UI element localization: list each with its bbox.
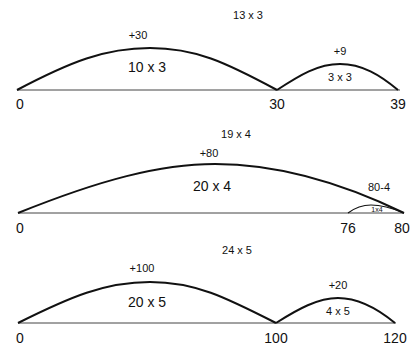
number-line-1-jump-1-label: +30	[129, 30, 148, 41]
number-line-3-jump-1-inner: 20 x 5	[128, 295, 166, 309]
number-line-2-tick-1: 76	[340, 221, 356, 235]
number-line-diagram: 13 x 3 +30 10 x 3 +9 3 x 3 0 30 39 19 x …	[0, 0, 420, 357]
number-line-3-jump-2-label: +20	[329, 280, 348, 291]
number-line-1-tick-0: 0	[16, 97, 24, 111]
number-line-1-jump-2-inner: 3 x 3	[328, 72, 352, 83]
number-line-2-title: 19 x 4	[221, 129, 251, 140]
number-line-3-title: 24 x 5	[222, 245, 252, 256]
number-line-2-jump-2-label: 80-4	[368, 182, 390, 193]
number-line-2-jump-1-inner: 20 x 4	[193, 179, 231, 193]
number-line-3-tick-0: 0	[16, 331, 24, 345]
number-line-1-jump-2-label: +9	[334, 46, 347, 57]
number-line-3-tick-1: 100	[264, 331, 287, 345]
number-line-3-tick-2: 120	[383, 331, 406, 345]
number-line-2-tick-0: 0	[16, 221, 24, 235]
number-line-2-tick-2: 80	[394, 221, 410, 235]
number-line-2-jump-1-label: +80	[200, 148, 219, 159]
number-line-1-title: 13 x 3	[233, 10, 263, 21]
number-line-1-tick-2: 39	[390, 97, 406, 111]
number-line-3-jump-1-label: +100	[130, 263, 155, 274]
number-line-1-tick-1: 30	[269, 97, 285, 111]
number-line-2-jump-2-inner: 1x4	[371, 206, 382, 213]
number-line-3-jump-2-inner: 4 x 5	[326, 306, 350, 317]
number-line-1-jump-1-inner: 10 x 3	[128, 60, 166, 74]
